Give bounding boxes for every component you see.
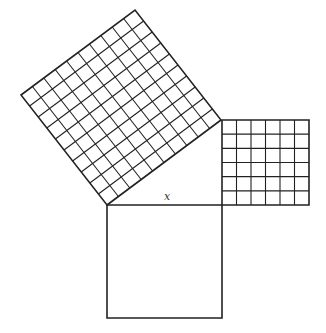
hypotenuse-grid-square: [21, 10, 221, 205]
side-label-x: x: [164, 190, 171, 203]
pythagorean-diagram: x: [0, 0, 326, 333]
unknown-leg-square: [107, 205, 222, 318]
small-leg-grid-square: [222, 120, 309, 205]
